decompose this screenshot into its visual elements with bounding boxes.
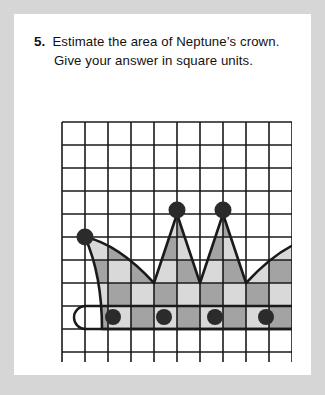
crown-cell xyxy=(62,191,85,214)
crown-cell xyxy=(200,122,223,145)
crown-cell xyxy=(62,122,85,145)
crown-cell xyxy=(154,329,177,352)
crown-cell xyxy=(200,329,223,352)
crown-cell xyxy=(85,145,108,168)
question-line-2: Give your answer in square units. xyxy=(34,51,302,70)
crown-figure xyxy=(33,92,292,362)
crown-cell xyxy=(177,122,200,145)
base-jewel-3 xyxy=(207,309,223,325)
crown-cell xyxy=(62,352,85,362)
crown-cell xyxy=(246,145,269,168)
crown-cell xyxy=(85,283,108,306)
crown-cell xyxy=(154,145,177,168)
crown-cell xyxy=(62,329,85,352)
crown-cell xyxy=(131,306,154,329)
crown-cell xyxy=(108,329,131,352)
crown-cell xyxy=(246,237,269,260)
question-line-1: 5.Estimate the area of Neptune’s crown. xyxy=(34,32,302,51)
crown-cell xyxy=(154,283,177,306)
crown-cell xyxy=(154,122,177,145)
crown-cell xyxy=(85,122,108,145)
crown-cell xyxy=(269,145,292,168)
crown-cell xyxy=(269,260,292,283)
crown-cell xyxy=(246,168,269,191)
crown-cell xyxy=(223,329,246,352)
crown-cell xyxy=(108,214,131,237)
crown-cell xyxy=(108,352,131,362)
crown-cell xyxy=(131,122,154,145)
question-number: 5. xyxy=(34,34,45,49)
base-jewel-1 xyxy=(105,309,121,325)
crown-cell xyxy=(200,168,223,191)
worksheet-page: 5.Estimate the area of Neptune’s crown. … xyxy=(0,0,325,395)
crown-cell xyxy=(108,168,131,191)
crown-cell xyxy=(200,283,223,306)
left-point-ball xyxy=(77,229,94,246)
crown-cell xyxy=(131,352,154,362)
crown-cell xyxy=(269,283,292,306)
crown-cell xyxy=(177,168,200,191)
question-text-block: 5.Estimate the area of Neptune’s crown. … xyxy=(34,32,302,70)
inner-left-ball xyxy=(169,202,186,219)
inner-right-ball xyxy=(215,202,232,219)
crown-cell xyxy=(131,191,154,214)
crown-cell xyxy=(154,168,177,191)
crown-cell xyxy=(246,191,269,214)
crown-cell xyxy=(108,122,131,145)
question-card: 5.Estimate the area of Neptune’s crown. … xyxy=(14,14,311,375)
crown-diagram xyxy=(33,92,292,362)
question-line-2-text: Give your answer in square units. xyxy=(54,53,253,68)
crown-cell xyxy=(108,260,131,283)
crown-cell xyxy=(269,122,292,145)
crown-cell xyxy=(223,145,246,168)
crown-cell xyxy=(62,145,85,168)
crown-cell xyxy=(269,168,292,191)
crown-cell xyxy=(154,352,177,362)
crown-cell xyxy=(131,214,154,237)
crown-cell xyxy=(85,168,108,191)
crown-cell xyxy=(108,191,131,214)
crown-cell xyxy=(246,329,269,352)
question-line-1-text: Estimate the area of Neptune’s crown. xyxy=(52,34,279,49)
crown-cell xyxy=(177,145,200,168)
crown-cell xyxy=(85,329,108,352)
crown-cell xyxy=(269,329,292,352)
crown-cell xyxy=(223,306,246,329)
crown-cell xyxy=(131,283,154,306)
crown-cell xyxy=(223,352,246,362)
crown-cell xyxy=(177,352,200,362)
base-jewel-2 xyxy=(156,309,172,325)
crown-cell xyxy=(131,329,154,352)
crown-cell xyxy=(62,168,85,191)
crown-cell xyxy=(223,122,246,145)
crown-cell xyxy=(223,283,246,306)
crown-cell xyxy=(177,306,200,329)
crown-cell xyxy=(85,191,108,214)
crown-cell xyxy=(62,283,85,306)
crown-cell xyxy=(246,352,269,362)
crown-cell xyxy=(200,145,223,168)
crown-cell xyxy=(223,168,246,191)
crown-cell xyxy=(131,168,154,191)
crown-cell xyxy=(108,283,131,306)
crown-cell xyxy=(246,122,269,145)
crown-cell xyxy=(131,145,154,168)
crown-cell xyxy=(269,214,292,237)
base-jewel-4 xyxy=(258,309,274,325)
crown-cell xyxy=(62,260,85,283)
crown-cell xyxy=(269,352,292,362)
crown-cell xyxy=(131,237,154,260)
crown-cell xyxy=(200,352,223,362)
crown-cell xyxy=(85,306,108,329)
crown-cell xyxy=(108,145,131,168)
crown-cell xyxy=(177,329,200,352)
crown-cell xyxy=(177,283,200,306)
crown-cell xyxy=(85,352,108,362)
crown-cell xyxy=(246,214,269,237)
crown-cell xyxy=(246,283,269,306)
crown-cell xyxy=(269,191,292,214)
